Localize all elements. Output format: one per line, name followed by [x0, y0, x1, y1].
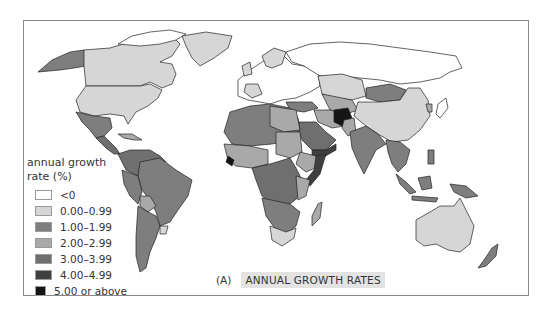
legend-swatch: [35, 270, 52, 280]
region-new-zealand: [478, 244, 498, 268]
region-new-guinea: [450, 184, 478, 198]
region-southeast-asia: [386, 140, 410, 172]
legend-item: 2.00–2.99: [27, 235, 127, 251]
legend-swatch: [35, 254, 52, 264]
legend-item: <0: [27, 187, 127, 203]
panel-label: (A): [216, 274, 231, 286]
region-argentina: [136, 206, 160, 272]
legend-item: 5.00 or above: [27, 283, 127, 299]
region-sudan: [276, 132, 302, 158]
figure-caption: (A) ANNUAL GROWTH RATES: [216, 272, 385, 288]
legend: annual growth rate (%) <0 0.00–0.99 1.00…: [27, 156, 127, 299]
region-japan: [436, 98, 448, 118]
region-indonesia-borneo: [418, 176, 432, 190]
region-madagascar: [312, 202, 322, 226]
legend-swatch: [35, 190, 52, 200]
region-philippines: [428, 150, 434, 164]
region-east-africa: [296, 176, 310, 200]
legend-swatch: [35, 286, 46, 296]
region-mongolia: [366, 84, 406, 102]
region-caribbean: [118, 134, 142, 140]
region-indonesia-java: [412, 196, 438, 202]
region-mexico: [76, 112, 112, 138]
legend-item: 0.00–0.99: [27, 203, 127, 219]
legend-swatch: [35, 238, 52, 248]
region-indonesia-sumatra: [396, 174, 416, 194]
region-greenland: [182, 32, 232, 66]
region-libya-egypt: [270, 106, 300, 132]
legend-item: 1.00–1.99: [27, 219, 127, 235]
legend-title: annual growth rate (%): [27, 156, 127, 184]
legend-swatch: [35, 222, 52, 232]
figure-title: ANNUAL GROWTH RATES: [241, 272, 384, 288]
region-uk: [242, 62, 252, 76]
legend-item: 3.00–3.99: [27, 251, 127, 267]
legend-item: 4.00–4.99: [27, 267, 127, 283]
region-central-america: [96, 136, 120, 154]
region-australia: [416, 198, 474, 252]
legend-swatch: [35, 206, 52, 216]
region-uruguay: [160, 226, 168, 234]
